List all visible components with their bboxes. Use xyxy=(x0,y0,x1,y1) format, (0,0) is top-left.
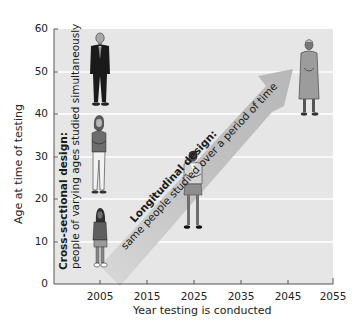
x-axis-title: Year testing is conducted xyxy=(133,304,272,317)
y-axis-title: Age at time of testing xyxy=(12,104,25,224)
x-tick-2015: 2015 xyxy=(127,290,167,302)
y-tick-40: 40 xyxy=(28,107,48,119)
y-tick-10: 10 xyxy=(28,235,48,247)
chart-canvas: Longitudinal design: same people studied… xyxy=(0,0,360,330)
cross-sectional-text: people of varying ages studied simultane… xyxy=(69,24,81,269)
x-tick-2055: 2055 xyxy=(313,290,353,302)
x-tick-2005: 2005 xyxy=(80,290,120,302)
x-tick-2045: 2045 xyxy=(268,290,308,302)
research-design-figure: Longitudinal design: same people studied… xyxy=(0,0,360,330)
y-tick-50: 50 xyxy=(28,65,48,77)
y-tick-20: 20 xyxy=(28,192,48,204)
x-tick-2035: 2035 xyxy=(221,290,261,302)
y-tick-0: 0 xyxy=(28,277,48,289)
y-tick-60: 60 xyxy=(28,22,48,34)
svg-text:Age at time of testing: Age at time of testing xyxy=(12,104,25,224)
cross-sectional-heading: Cross-sectional design: xyxy=(57,132,69,270)
x-tick-2025: 2025 xyxy=(174,290,214,302)
y-tick-30: 30 xyxy=(28,150,48,162)
